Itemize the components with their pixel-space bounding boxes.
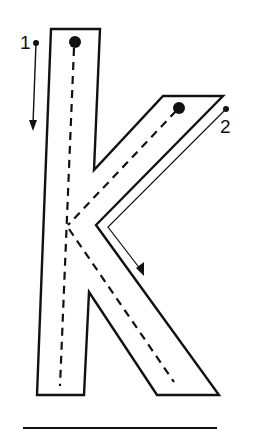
stem-start-dot	[69, 36, 81, 48]
stroke-1-number-label: 1	[20, 33, 31, 52]
stroke-1-arrow-icon	[29, 40, 39, 131]
stroke-2-number-label: 2	[220, 117, 231, 136]
letter-k-tracing-worksheet	[0, 0, 256, 433]
arm-start-dot	[173, 102, 185, 114]
letter-k-outline	[37, 29, 223, 395]
